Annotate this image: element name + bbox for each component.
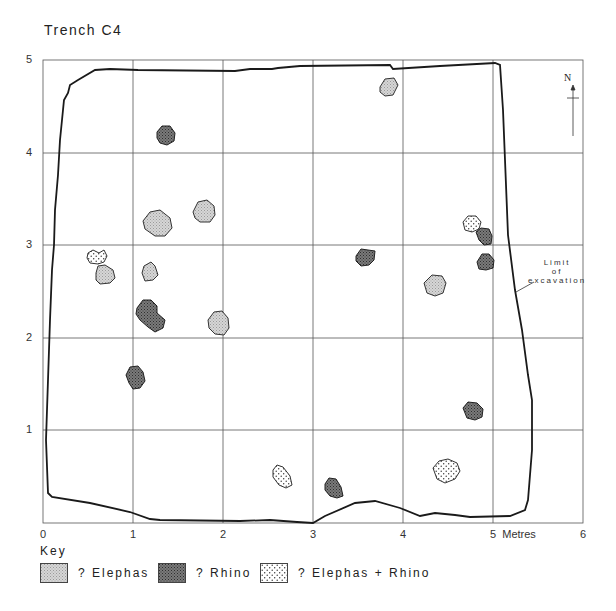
key-title: Key xyxy=(40,544,67,558)
rhino-swatch xyxy=(158,563,186,583)
elephas-features xyxy=(96,78,446,335)
excavation-boundary xyxy=(46,63,532,523)
trench-plan xyxy=(0,0,616,611)
x-tick-5: 5 Metres xyxy=(490,528,536,540)
x-tick-0: 0 xyxy=(40,528,46,540)
key-item-elephas-rhino: ? Elephas + Rhino xyxy=(260,563,430,583)
x-tick-3: 3 xyxy=(310,528,316,540)
x-tick-6: 6 xyxy=(580,528,586,540)
elephas-rhino-features xyxy=(87,216,481,488)
y-tick-4: 4 xyxy=(26,146,32,158)
y-tick-2: 2 xyxy=(26,331,32,343)
elephas-swatch xyxy=(40,563,68,583)
x-tick-4: 4 xyxy=(400,528,406,540)
key-item-elephas: ? Elephas xyxy=(40,563,149,583)
x-tick-1: 1 xyxy=(130,528,136,540)
key-item-rhino: ? Rhino xyxy=(158,563,251,583)
limit-of-excavation-label: Limit of excavation xyxy=(528,258,586,285)
elephas-rhino-swatch xyxy=(260,563,288,583)
x-tick-2: 2 xyxy=(220,528,226,540)
y-tick-1: 1 xyxy=(26,423,32,435)
north-arrow-icon xyxy=(567,85,579,136)
grid xyxy=(43,60,583,523)
north-label: N xyxy=(564,72,571,83)
rhino-features xyxy=(126,126,494,498)
y-tick-5: 5 xyxy=(26,53,32,65)
y-tick-3: 3 xyxy=(26,238,32,250)
